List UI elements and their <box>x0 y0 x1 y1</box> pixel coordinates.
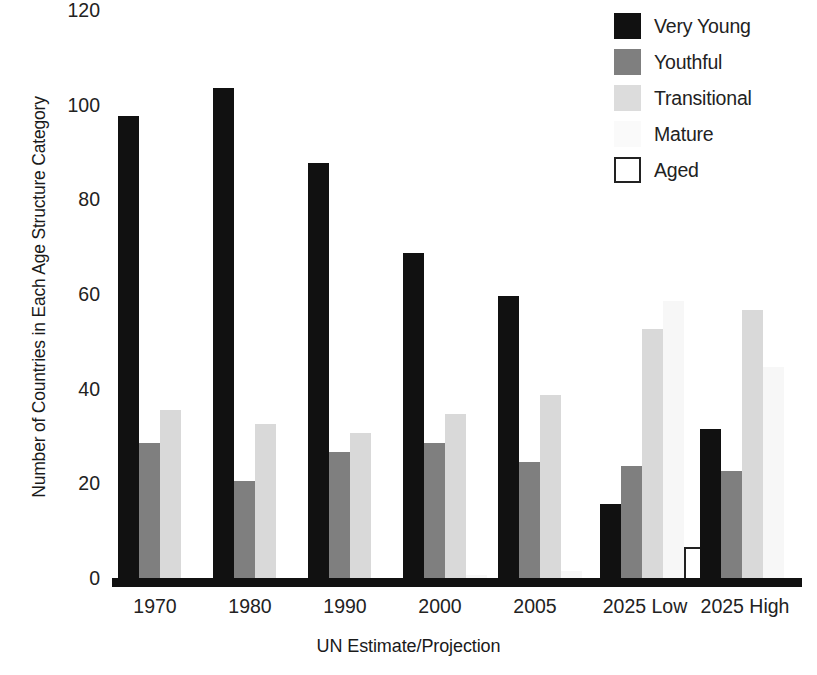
x-axis-tick-2005: 2005 <box>513 595 556 618</box>
bar-transitional <box>540 395 561 580</box>
x-axis-tick-2025-low: 2025 Low <box>603 595 688 618</box>
x-axis-tick-1990: 1990 <box>323 595 366 618</box>
bar-transitional <box>255 424 276 580</box>
legend-swatch-icon-ma <box>614 121 641 147</box>
legend-item-aged: Aged <box>614 152 817 188</box>
legend-swatch-icon-tr <box>614 85 641 111</box>
bar-transitional <box>742 310 763 580</box>
chart-figure: Number of Countries in Each Age Structur… <box>0 0 817 675</box>
bar-transitional <box>350 433 371 580</box>
legend-label: Youthful <box>654 51 722 74</box>
bar-youthful <box>329 452 350 580</box>
bar-very-young <box>308 163 329 580</box>
bar-youthful <box>139 443 160 580</box>
legend-label: Aged <box>654 159 699 182</box>
y-axis-tick-100: 100 <box>44 93 100 116</box>
y-axis-tick-40: 40 <box>44 377 100 400</box>
bar-very-young <box>498 296 519 580</box>
x-axis-tick-1970: 1970 <box>133 595 176 618</box>
bar-group-1970 <box>118 0 181 580</box>
legend-item-mature: Mature <box>614 116 817 152</box>
x-axis-tick-1980: 1980 <box>228 595 271 618</box>
bar-group-1990 <box>308 0 371 580</box>
legend-label: Very Young <box>654 15 751 38</box>
chart-legend: Very YoungYouthfulTransitionalMatureAged <box>614 8 817 188</box>
y-axis-tick-60: 60 <box>44 283 100 306</box>
bar-very-young <box>700 429 721 580</box>
x-axis-title: UN Estimate/Projection <box>0 636 817 657</box>
bar-group-2000 <box>403 0 487 580</box>
y-axis-tick-80: 80 <box>44 188 100 211</box>
y-axis-tick-20: 20 <box>44 472 100 495</box>
bar-very-young <box>118 116 139 580</box>
legend-swatch-icon-ag <box>614 157 641 183</box>
bar-transitional <box>642 329 663 580</box>
bar-transitional <box>445 414 466 580</box>
bar-youthful <box>721 471 742 580</box>
x-axis-tick-2025-high: 2025 High <box>701 595 790 618</box>
y-axis-tick-0: 0 <box>44 567 100 590</box>
bar-very-young <box>213 88 234 580</box>
legend-swatch-icon-vy <box>614 13 641 39</box>
y-axis-tick-labels: 020406080100120 <box>44 0 100 675</box>
bar-youthful <box>519 462 540 580</box>
bar-youthful <box>234 481 255 580</box>
legend-item-very-young: Very Young <box>614 8 817 44</box>
bar-mature <box>763 367 784 580</box>
bar-youthful <box>424 443 445 580</box>
bar-group-2005 <box>498 0 582 580</box>
bar-very-young <box>600 504 621 580</box>
y-axis-tick-120: 120 <box>44 0 100 22</box>
bar-transitional <box>160 410 181 580</box>
bar-mature <box>663 301 684 580</box>
bar-youthful <box>621 466 642 580</box>
x-axis-tick-2000: 2000 <box>418 595 461 618</box>
legend-label: Mature <box>654 123 714 146</box>
legend-label: Transitional <box>654 87 752 110</box>
legend-swatch-icon-yo <box>614 49 641 75</box>
legend-item-youthful: Youthful <box>614 44 817 80</box>
bar-very-young <box>403 253 424 580</box>
legend-item-transitional: Transitional <box>614 80 817 116</box>
x-axis-line <box>112 578 802 587</box>
bar-group-1980 <box>213 0 276 580</box>
